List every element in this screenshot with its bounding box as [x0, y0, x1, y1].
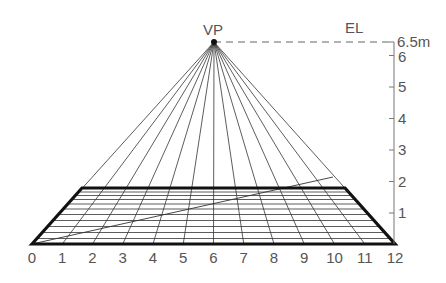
vp-label: VP: [203, 21, 223, 38]
x-tick-11: 11: [357, 249, 373, 266]
perspective-rays: [32, 42, 395, 244]
y-tick-5: 5: [398, 78, 406, 95]
el-label: EL: [345, 19, 363, 36]
x-tick-2: 2: [88, 249, 96, 266]
x-tick-1: 1: [58, 249, 66, 266]
x-tick-4: 4: [149, 249, 157, 266]
vanishing-point-marker: [211, 39, 217, 45]
x-tick-12: 12: [387, 249, 404, 266]
x-tick-3: 3: [119, 249, 127, 266]
y-tick-4: 4: [398, 110, 406, 127]
x-tick-8: 8: [270, 249, 278, 266]
height-axis-labels: 1 2 3 4 5 6: [398, 48, 406, 221]
y-tick-6: 6: [398, 48, 406, 65]
x-tick-6: 6: [209, 249, 217, 266]
x-tick-9: 9: [300, 249, 308, 266]
x-tick-10: 10: [326, 249, 343, 266]
x-tick-7: 7: [240, 249, 248, 266]
y-tick-1: 1: [398, 204, 406, 221]
perspective-grid-diagram: VP EL 6.5m 1 2 3 4 5 6 0 1 2 3 4 5 6 7 8…: [0, 0, 446, 283]
height-axis-ticks: [389, 42, 394, 213]
y-tick-3: 3: [398, 141, 406, 158]
x-tick-5: 5: [179, 249, 187, 266]
y-tick-2: 2: [398, 173, 406, 190]
x-tick-0: 0: [28, 249, 36, 266]
base-axis-labels: 0 1 2 3 4 5 6 7 8 9 10 11 12: [28, 249, 404, 266]
